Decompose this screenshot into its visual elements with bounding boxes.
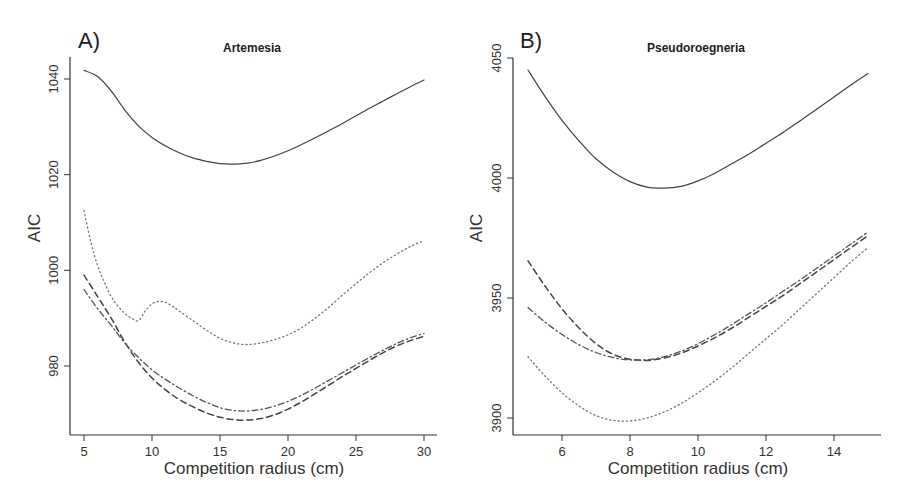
y-tick-label: 980 (46, 355, 61, 377)
y-tick-label: 1020 (46, 160, 61, 189)
panel-b-x-axis-label: Competition radius (cm) (608, 459, 788, 478)
x-tick-label: 20 (281, 444, 295, 459)
curve-dotted (528, 248, 868, 422)
y-tick-label: 1000 (46, 256, 61, 285)
curve-dashed (84, 275, 424, 420)
y-tick-label: 1040 (46, 65, 61, 94)
panel-a-curves (84, 70, 424, 420)
curve-dot-dash (84, 290, 424, 412)
y-tick-label: 3900 (489, 404, 504, 433)
curve-solid (84, 70, 424, 164)
curve-dashed (528, 236, 868, 361)
curve-solid (528, 70, 868, 188)
panel-b-curves (528, 70, 868, 421)
y-tick-label: 3950 (489, 284, 504, 313)
x-tick-label: 5 (80, 444, 87, 459)
x-tick-label: 10 (145, 444, 159, 459)
panel-a-axes: 51015202530980100010201040 (46, 57, 437, 459)
panel-b-pseudoroegneria: B) Pseudoroegneria Competition radius (c… (467, 28, 881, 478)
x-tick-label: 6 (558, 444, 565, 459)
y-tick-label: 4050 (489, 44, 504, 73)
panel-a-x-axis-label: Competition radius (cm) (164, 459, 344, 478)
x-tick-label: 25 (349, 444, 363, 459)
panel-b-y-axis-label: AIC (467, 214, 486, 242)
curve-dot-dash (528, 232, 868, 360)
x-tick-label: 10 (691, 444, 705, 459)
panel-a-y-axis-label: AIC (25, 214, 44, 242)
x-tick-label: 8 (626, 444, 633, 459)
panel-a-artemesia: A) Artemesia Competition radius (cm) AIC… (25, 28, 437, 478)
panel-a-letter: A) (78, 28, 100, 53)
y-tick-label: 4000 (489, 164, 504, 193)
x-tick-label: 12 (759, 444, 773, 459)
panel-b-letter: B) (520, 28, 542, 53)
panel-a-title: Artemesia (223, 41, 281, 55)
panel-b-title: Pseudoroegneria (647, 41, 745, 55)
x-tick-label: 14 (827, 444, 841, 459)
curve-dotted (84, 211, 424, 345)
x-tick-label: 15 (213, 444, 227, 459)
x-tick-label: 30 (417, 444, 431, 459)
figure: A) Artemesia Competition radius (cm) AIC… (0, 0, 905, 497)
